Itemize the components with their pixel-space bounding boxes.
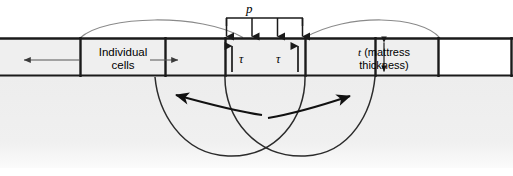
thickness-note: (mattress thickness) (359, 46, 410, 71)
thickness-symbol: t (358, 46, 361, 58)
subgrade-soil-body (0, 76, 513, 168)
heave-bulge-left (80, 20, 243, 38)
mattress-band (0, 38, 513, 76)
shear-label-left: τ (239, 53, 243, 67)
pressure-label: p (246, 2, 253, 17)
individual-cells-label: Individual cells (87, 46, 159, 72)
applied-pressure-group (226, 18, 303, 37)
heave-bulge-right (305, 20, 440, 38)
mattress-thickness-label: t (mattress thickness) (336, 46, 432, 71)
diagram-canvas (0, 0, 513, 176)
shear-label-right: τ (276, 53, 280, 67)
heave-bulge-curves (80, 20, 440, 38)
mattress-cells-diagram: p τ τ Individual cells t (mattress thick… (0, 0, 513, 176)
